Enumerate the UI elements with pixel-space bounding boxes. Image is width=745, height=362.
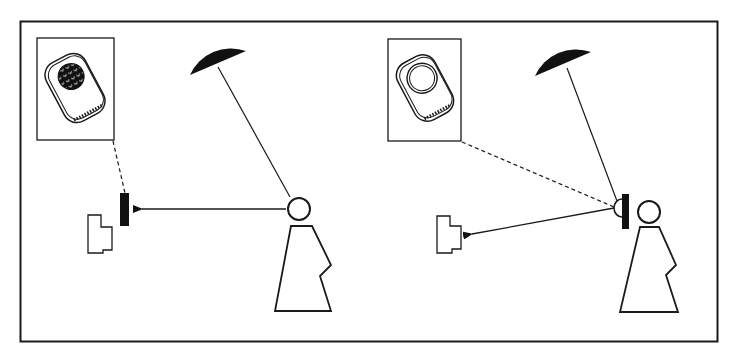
light-meter-reflected-icon	[40, 49, 110, 128]
diagram-canvas	[0, 0, 745, 362]
light-meter-bar-right	[622, 194, 629, 229]
panel-right	[388, 39, 678, 312]
panel-left	[37, 38, 331, 311]
umbrella-light-ray-left	[218, 67, 290, 197]
camera-icon-left	[88, 215, 112, 253]
outer-frame	[21, 22, 718, 342]
umbrella-light-icon-right	[535, 49, 591, 76]
camera-icon-right	[437, 216, 461, 253]
umbrella-light-icon-left	[190, 48, 246, 75]
light-meter-incident-dome-icon	[391, 50, 458, 126]
subject-head-left	[288, 198, 310, 220]
umbrella-light-ray-right	[567, 68, 617, 201]
light-meter-bar-left	[120, 193, 129, 226]
subject-body-left	[275, 226, 331, 311]
light-ray-arrow-right	[472, 208, 614, 234]
incident-dome-right	[614, 199, 622, 217]
diagram-stage	[0, 0, 745, 362]
subject-head-right	[638, 201, 660, 223]
leader-dashed-right	[462, 142, 614, 207]
subject-body-right	[620, 227, 678, 312]
leader-dashed-left	[113, 141, 125, 193]
